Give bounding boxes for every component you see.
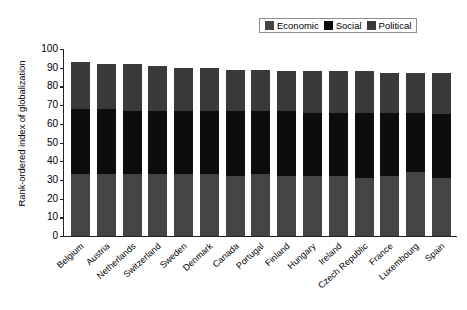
y-axis-tick-label: 80 (47, 81, 58, 91)
x-axis-label-cell: Spain (431, 238, 450, 308)
bar-segment-social (432, 114, 451, 178)
y-axis-tick-label: 10 (47, 212, 58, 222)
bar-segment-economic (71, 174, 90, 236)
bar-segment-economic (277, 176, 296, 236)
bar-column (200, 49, 219, 236)
bar-segment-economic (303, 176, 322, 236)
y-axis-tick-label: 50 (47, 138, 58, 148)
bar-segment-social (123, 111, 142, 175)
bar-segment-economic (174, 174, 193, 236)
y-axis-tick-label: 100 (41, 44, 58, 54)
y-axis-tick-label: 20 (47, 194, 58, 204)
bar-segment-social (226, 111, 245, 176)
bar-segment-economic (355, 178, 374, 236)
x-axis-label-cell: Sweden (173, 238, 192, 308)
y-axis-tick-label: 40 (47, 156, 58, 166)
bar-segment-economic (148, 174, 167, 236)
bar-segment-economic (123, 174, 142, 236)
bar-segment-social (71, 109, 90, 174)
y-axis-tick-label: 0 (52, 231, 58, 241)
bar-segment-political (148, 66, 167, 111)
bar-segment-social (329, 113, 348, 177)
bar-segment-social (251, 111, 270, 175)
x-axis-label-cell: Switzerland (147, 238, 166, 308)
bar-segment-political (251, 70, 270, 111)
bar-column (251, 49, 270, 236)
legend-item-social: Social (324, 21, 362, 31)
bar-column (71, 49, 90, 236)
bar-column (329, 49, 348, 236)
x-axis-label-cell: Canada (225, 238, 244, 308)
y-axis-title: Rank-ordered index of globalization (16, 34, 27, 234)
bar-segment-political (174, 68, 193, 111)
bar-segment-political (123, 64, 142, 111)
x-axis-label-cell: Belgium (70, 238, 89, 308)
bar-segment-political (406, 73, 425, 112)
legend-label-political: Political (379, 21, 412, 31)
bar-segment-social (303, 113, 322, 177)
bar-column (380, 49, 399, 236)
bar-segment-economic (380, 176, 399, 236)
bar-segment-social (355, 113, 374, 178)
bar-segment-economic (329, 176, 348, 236)
bar-column (406, 49, 425, 236)
bar-segment-social (97, 109, 116, 174)
x-axis-label: Belgium (55, 241, 86, 270)
bar-segment-social (148, 111, 167, 175)
x-axis-label: Spain (423, 241, 447, 264)
legend-swatch-political-icon (367, 21, 376, 30)
bar-segment-political (303, 71, 322, 112)
bar-column (226, 49, 245, 236)
x-axis-label-cell: Portugal (250, 238, 269, 308)
bar-column (432, 49, 451, 236)
bar-segment-political (380, 73, 399, 112)
x-axis-label-cell: Finland (276, 238, 295, 308)
bar-segment-social (380, 113, 399, 177)
bar-segment-social (200, 111, 219, 175)
bar-segment-political (71, 62, 90, 109)
bar-column (355, 49, 374, 236)
y-axis-tick-label: 60 (47, 119, 58, 129)
legend-item-political: Political (367, 21, 412, 31)
bar-segment-social (174, 111, 193, 175)
bar-segment-economic (226, 176, 245, 236)
y-axis-tick-label: 30 (47, 175, 58, 185)
bar-segment-political (355, 71, 374, 112)
bar-segment-social (277, 111, 296, 176)
x-axis-label-cell: Denmark (199, 238, 218, 308)
bar-segment-political (200, 68, 219, 111)
bar-segment-political (329, 71, 348, 112)
legend-label-social: Social (336, 21, 362, 31)
bar-segment-economic (97, 174, 116, 236)
x-axis-label-cell: Luxembourg (405, 238, 424, 308)
legend-swatch-economic-icon (265, 21, 274, 30)
bar-segment-political (97, 64, 116, 109)
bar-column (148, 49, 167, 236)
bar-segment-economic (251, 174, 270, 236)
legend-swatch-social-icon (324, 21, 333, 30)
bar-segment-economic (432, 178, 451, 236)
bar-segment-economic (406, 172, 425, 236)
plot-area: 0102030405060708090100 (63, 49, 457, 237)
y-axis-tick-label: 70 (47, 100, 58, 110)
x-axis-label-cell: Hungary (302, 238, 321, 308)
y-axis-tick-label: 90 (47, 63, 58, 73)
bar-segment-political (277, 71, 296, 110)
bar-column (123, 49, 142, 236)
legend-label-economic: Economic (277, 21, 319, 31)
bar-column (303, 49, 322, 236)
bar-column (277, 49, 296, 236)
legend-item-economic: Economic (265, 21, 319, 31)
bar-column (174, 49, 193, 236)
bar-segment-economic (200, 174, 219, 236)
bar-segment-social (406, 113, 425, 173)
bar-segment-political (432, 73, 451, 114)
chart-legend: Economic Social Political (259, 18, 417, 33)
globalization-index-chart: Rank-ordered index of globalization 0102… (0, 0, 467, 310)
x-axis-label-cell: Czech Republic (354, 238, 373, 308)
x-axis-tick-labels: BelgiumAustriaNetherlandsSwitzerlandSwed… (63, 238, 456, 308)
bar-series-container (64, 49, 457, 236)
bar-segment-political (226, 70, 245, 111)
bar-column (97, 49, 116, 236)
